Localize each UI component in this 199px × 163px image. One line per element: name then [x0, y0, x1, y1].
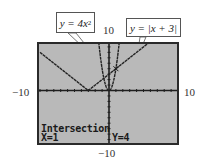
y-readout: Y=4 — [112, 133, 129, 143]
absolute-equation-text: y = |x + 3| — [130, 22, 177, 34]
callout-absolute-equation: y = |x + 3| — [126, 18, 181, 37]
parabola-equation-text: y = 4x — [60, 17, 88, 29]
callout-parabola-equation: y = 4x2 — [56, 12, 95, 33]
calculator-screen: Intersection X=1 Y=4 — [37, 42, 179, 145]
x-readout: X=1 — [41, 133, 58, 143]
parabola-exponent: 2 — [88, 19, 92, 27]
absolute-value-curve — [40, 44, 172, 90]
